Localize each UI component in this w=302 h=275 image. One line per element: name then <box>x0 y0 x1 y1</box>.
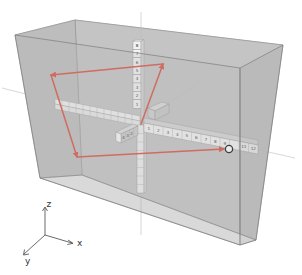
diagram-canvas: 8 7 6 5 4 3 2 1 <box>0 0 302 275</box>
legend-x-axis <box>45 235 72 243</box>
legend-y-label: y <box>25 256 31 266</box>
legend-y-axis <box>24 235 45 254</box>
legend-x-label: x <box>77 238 83 248</box>
box-right-face <box>240 45 283 245</box>
box-front <box>15 35 283 245</box>
z-label-8: 8 <box>136 43 139 48</box>
box-diagram: 8 7 6 5 4 3 2 1 <box>0 0 302 275</box>
box-front-face <box>15 35 240 245</box>
legend-z-label: z <box>47 199 52 209</box>
axis-legend <box>24 207 74 255</box>
